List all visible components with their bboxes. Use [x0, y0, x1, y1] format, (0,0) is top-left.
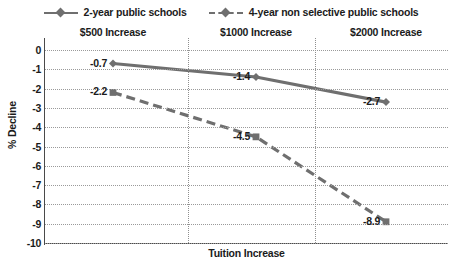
series-line	[113, 92, 386, 221]
category-headers: $500 Increase$1000 Increase$2000 Increas…	[45, 26, 448, 42]
gridline	[45, 147, 448, 148]
gridline	[45, 108, 448, 109]
category-header: $1000 Increase	[220, 26, 292, 38]
legend-item-label: 4-year non selective public schools	[249, 6, 419, 18]
data-point-label: -0.7	[90, 57, 107, 69]
data-point-label: -2.2	[90, 85, 107, 97]
gridline	[45, 185, 448, 186]
y-axis-tick-label: -1	[1, 63, 41, 75]
data-point-marker	[110, 89, 117, 96]
category-separator-line	[188, 38, 189, 243]
y-axis-tick-label: -9	[1, 218, 41, 230]
y-axis-tick-label: -7	[1, 179, 41, 191]
data-point-marker	[253, 133, 260, 140]
plot-area: -0.7-1.4-2.7-2.2-4.5-8.9	[45, 50, 448, 243]
y-axis-tick-label: -10	[1, 237, 41, 249]
category-header: $2000 Increase	[350, 26, 422, 38]
category-header: $500 Increase	[80, 26, 146, 38]
gridline	[45, 166, 448, 167]
legend-solid-line-diamond-marker-icon	[44, 7, 78, 18]
legend-item-label: 2-year public schools	[84, 6, 187, 18]
gridline	[45, 204, 448, 205]
data-point-marker	[382, 98, 390, 106]
gridline	[45, 243, 448, 244]
y-axis-tick-label: 0	[1, 44, 41, 56]
data-point-marker	[252, 73, 260, 81]
category-separator-line	[315, 38, 316, 243]
legend-item-2-year-public-schools: 2-year public schools	[44, 6, 187, 18]
y-axis-tick-label: -8	[1, 198, 41, 210]
data-point-marker	[109, 60, 117, 68]
gridline	[45, 127, 448, 128]
data-point-label: -2.7	[363, 95, 380, 107]
gridline	[45, 50, 448, 51]
gridline	[45, 224, 448, 225]
x-axis-title: Tuition Increase	[45, 247, 448, 259]
data-point-label: -8.9	[363, 215, 380, 227]
y-axis-title: % Decline	[6, 85, 18, 165]
data-point-label: -1.4	[233, 70, 250, 82]
legend-dashed-line-square-marker-icon	[209, 7, 243, 18]
data-point-label: -4.5	[233, 130, 250, 142]
chart-legend: 2-year public schools 4-year non selecti…	[0, 2, 462, 22]
legend-item-4-year-non-selective-public-schools: 4-year non selective public schools	[209, 6, 419, 18]
